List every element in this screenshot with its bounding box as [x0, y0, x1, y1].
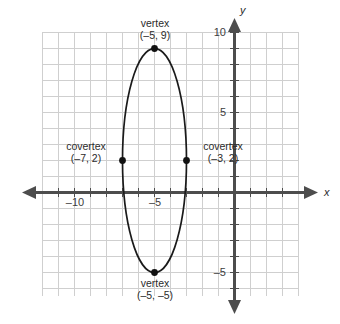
annotation-vertex-top-title: vertex: [141, 17, 170, 29]
annotation-vertex-bottom-coords: (–5, –5): [115, 290, 195, 302]
annotation-covertex-right-coords: (–3, 2): [191, 153, 255, 165]
annotation-covertex-right-title: covertex: [203, 140, 243, 152]
x-axis-arrow-left: [22, 186, 36, 199]
x-tick-label-neg10: –10: [59, 196, 91, 208]
annotation-vertex-top: vertex (–5, 9): [119, 18, 191, 42]
y-axis-label: y: [240, 4, 246, 16]
point-covertex-right: [183, 157, 190, 164]
y-axis-arrow-up: [228, 18, 241, 32]
coordinate-plane-svg: [0, 0, 340, 324]
y-tick-label-10: 10: [200, 26, 226, 38]
annotation-covertex-right: covertex (–3, 2): [191, 141, 255, 165]
annotation-covertex-left-title: covertex: [66, 140, 106, 152]
ellipse-graph-figure: x y –10 –5 10 5 –5 vertex (–5, 9) covert…: [0, 0, 340, 324]
annotation-vertex-bottom: vertex (–5, –5): [115, 278, 195, 302]
point-covertex-left: [119, 157, 126, 164]
y-axis: [228, 18, 241, 314]
y-axis-arrow-down: [228, 300, 241, 314]
x-axis-label: x: [324, 186, 330, 198]
annotation-covertex-left: covertex (–7, 2): [54, 141, 118, 165]
y-tick-label-neg5: –5: [196, 266, 226, 278]
annotation-vertex-top-coords: (–5, 9): [119, 30, 191, 42]
point-vertex-bottom: [151, 269, 158, 276]
x-axis-arrow-right: [304, 186, 318, 199]
annotation-covertex-left-coords: (–7, 2): [54, 153, 118, 165]
x-tick-label-neg5: –5: [139, 196, 171, 208]
y-tick-label-5: 5: [200, 106, 226, 118]
point-vertex-top: [151, 45, 158, 52]
annotation-vertex-bottom-title: vertex: [141, 277, 170, 289]
